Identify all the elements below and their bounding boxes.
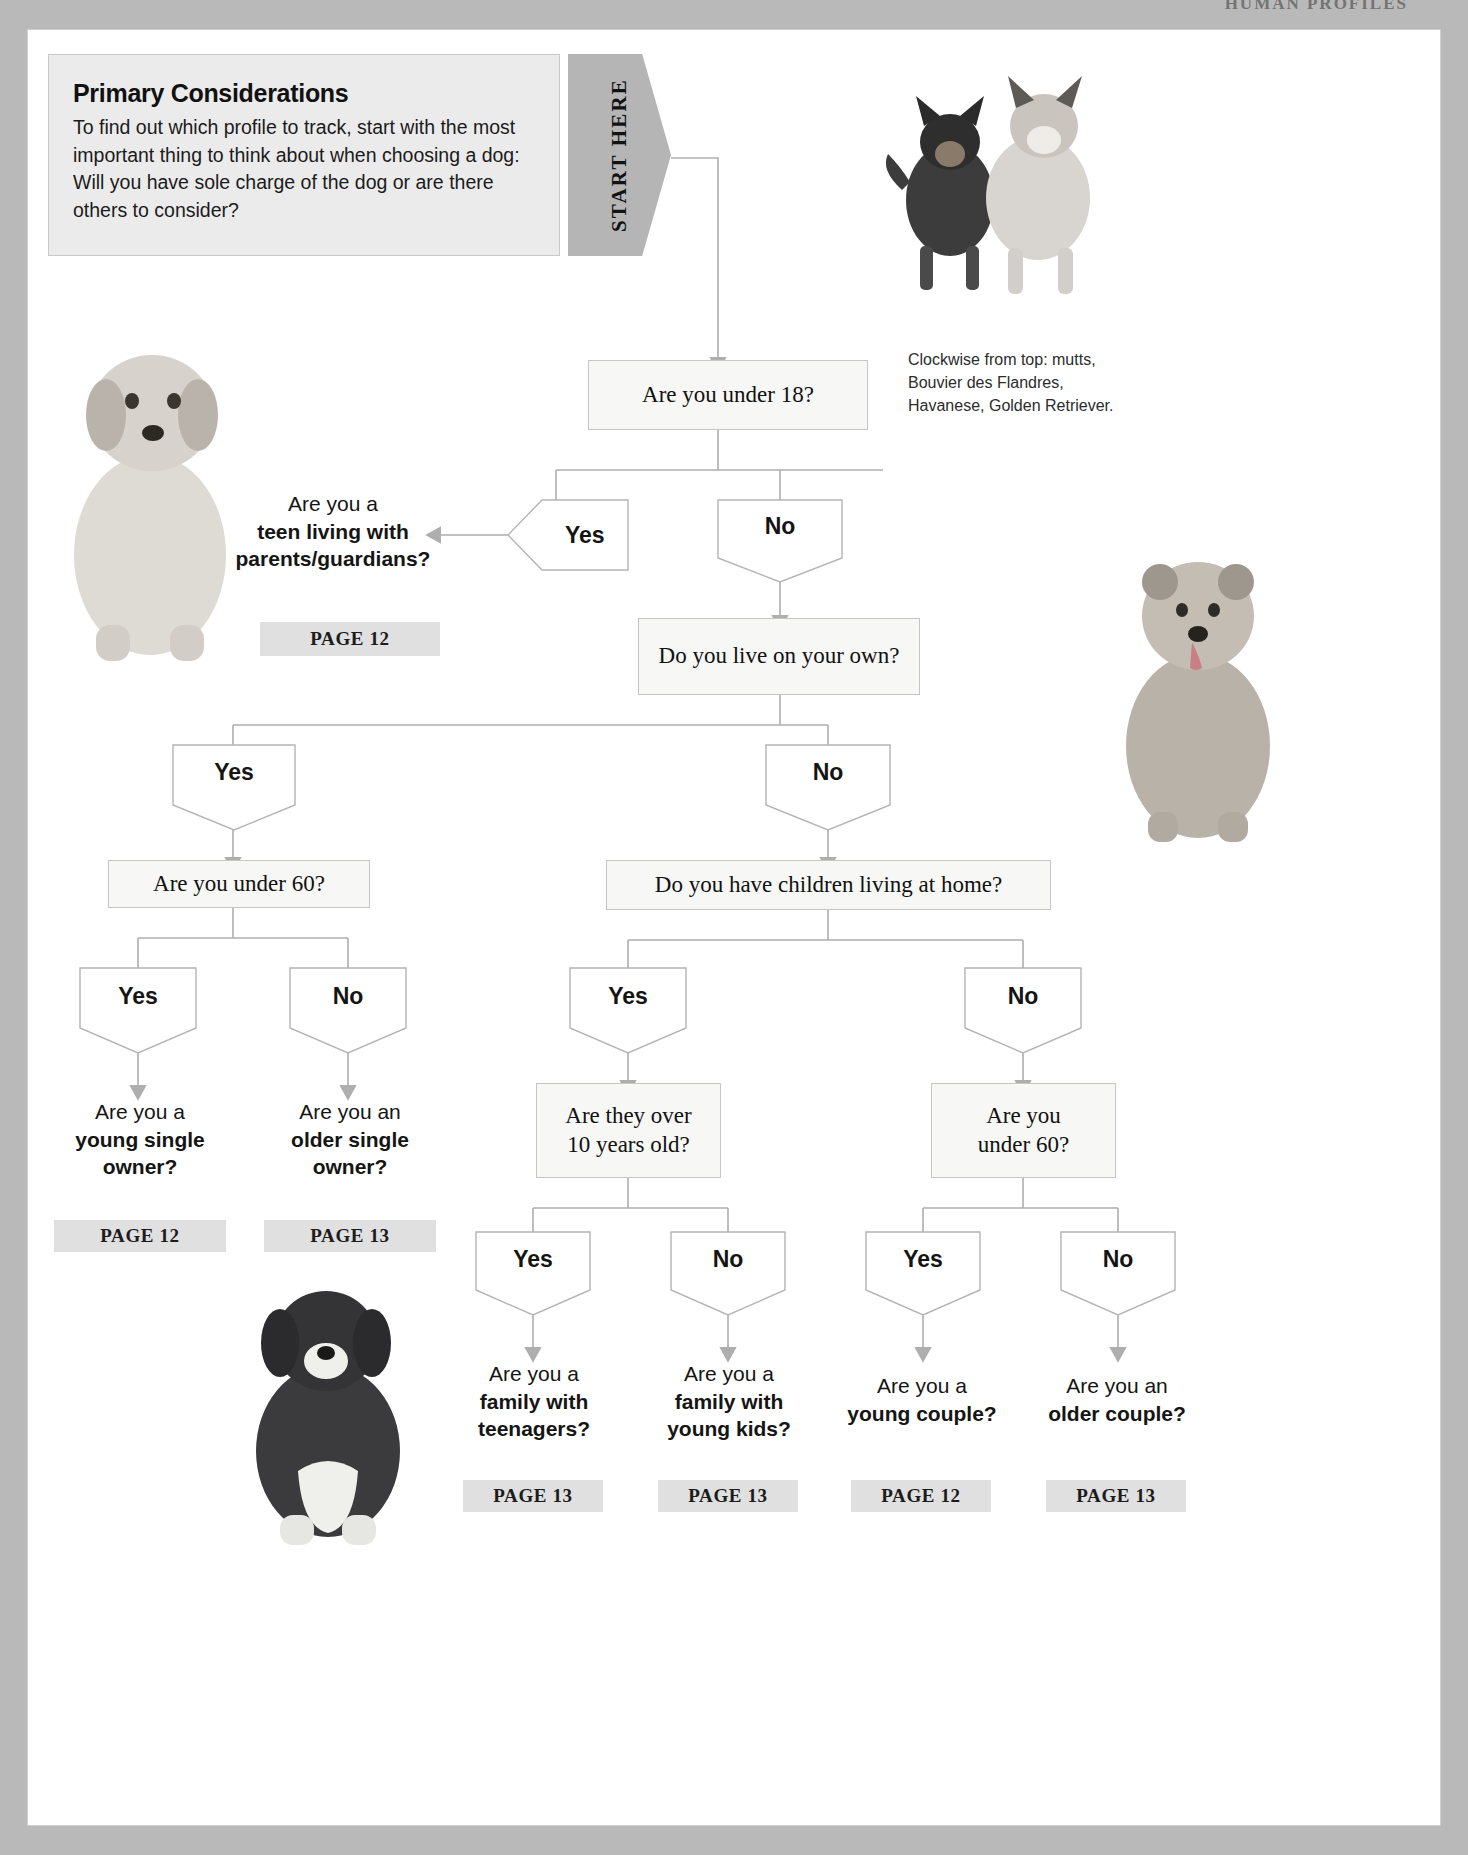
- result-strong-line-1: young couple?: [847, 1400, 996, 1428]
- result-lead: Are you an: [299, 1098, 401, 1126]
- result-family-with-young-kids: Are you a family with young kids?: [633, 1360, 825, 1470]
- page-chip-young-single[interactable]: PAGE 12: [54, 1220, 226, 1252]
- result-young-single-owner: Are you a young single owner?: [40, 1098, 240, 1208]
- result-lead: Are you a: [877, 1372, 967, 1400]
- result-strong-line-1: older single: [291, 1126, 409, 1154]
- question-text-line-1: Are they over: [565, 1102, 691, 1131]
- result-strong-line-1: family with: [675, 1388, 784, 1416]
- result-strong-line-2: teenagers?: [478, 1415, 590, 1443]
- page-chip-label: PAGE 13: [688, 1485, 767, 1507]
- question-text: Are you under 60?: [153, 870, 325, 899]
- connector-lines: [28, 30, 1440, 1825]
- result-teen-living-with-parents: Are you a teen living with parents/guard…: [223, 490, 443, 600]
- result-strong-line-2: owner?: [313, 1153, 388, 1181]
- answer-label: No: [718, 500, 842, 582]
- flowchart-canvas: Primary Considerations To find out which…: [28, 30, 1440, 1825]
- result-strong-line-2: parents/guardians?: [236, 545, 431, 573]
- question-under-18: Are you under 18?: [588, 360, 868, 430]
- answer-label: Yes: [80, 968, 196, 1053]
- start-here-label: START HERE: [568, 54, 671, 256]
- result-strong-line-1: older couple?: [1048, 1400, 1186, 1428]
- answer-label: Yes: [508, 500, 628, 570]
- question-text-line-1: Are you: [986, 1102, 1061, 1131]
- answer-label: No: [671, 1232, 785, 1315]
- result-strong-line-1: family with: [480, 1388, 589, 1416]
- photo-havanese: [210, 1265, 440, 1550]
- photo-caption: Clockwise from top: mutts, Bouvier des F…: [908, 348, 1138, 418]
- running-head: HUMAN PROFILES: [1225, 0, 1408, 14]
- result-family-with-teenagers: Are you a family with teenagers?: [438, 1360, 630, 1470]
- question-over-10-years-old: Are they over 10 years old?: [536, 1083, 721, 1178]
- page-chip-label: PAGE 13: [493, 1485, 572, 1507]
- page-chip-label: PAGE 12: [310, 628, 389, 650]
- answer-no-live-on-own[interactable]: No: [766, 745, 890, 830]
- question-text: Are you under 18?: [642, 381, 814, 410]
- result-lead: Are you a: [288, 490, 378, 518]
- result-young-couple: Are you a young couple?: [826, 1372, 1018, 1462]
- page-chip-label: PAGE 12: [100, 1225, 179, 1247]
- result-strong-line-2: young kids?: [667, 1415, 791, 1443]
- answer-label: Yes: [866, 1232, 980, 1315]
- question-text-line-2: 10 years old?: [567, 1131, 690, 1160]
- primary-considerations-panel: Primary Considerations To find out which…: [48, 54, 560, 256]
- page-chip-family-young-kids[interactable]: PAGE 13: [658, 1480, 798, 1512]
- answer-label: No: [1061, 1232, 1175, 1315]
- result-strong-line-1: young single: [75, 1126, 205, 1154]
- question-text: Do you live on your own?: [659, 642, 900, 671]
- result-lead: Are you a: [684, 1360, 774, 1388]
- answer-no-children[interactable]: No: [965, 968, 1081, 1053]
- answer-label: No: [290, 968, 406, 1053]
- result-older-couple: Are you an older couple?: [1021, 1372, 1213, 1462]
- answer-label: Yes: [173, 745, 295, 830]
- page-chip-label: PAGE 13: [1076, 1485, 1155, 1507]
- answer-yes-under-60-left[interactable]: Yes: [80, 968, 196, 1053]
- answer-yes-over-10[interactable]: Yes: [476, 1232, 590, 1315]
- page-chip-label: PAGE 13: [310, 1225, 389, 1247]
- result-strong-line-2: owner?: [103, 1153, 178, 1181]
- answer-no-under-60-left[interactable]: No: [290, 968, 406, 1053]
- answer-label: Yes: [570, 968, 686, 1053]
- question-text-line-2: under 60?: [978, 1131, 1069, 1160]
- question-under-60-left: Are you under 60?: [108, 860, 370, 908]
- page-header: HUMAN PROFILES: [0, 0, 1468, 30]
- page-chip-older-couple[interactable]: PAGE 13: [1046, 1480, 1186, 1512]
- photo-bouvier-des-flandres: [1096, 530, 1301, 845]
- answer-yes-children[interactable]: Yes: [570, 968, 686, 1053]
- answer-label: No: [766, 745, 890, 830]
- result-lead: Are you a: [489, 1360, 579, 1388]
- answer-yes-live-on-own[interactable]: Yes: [173, 745, 295, 830]
- page-chip-young-couple[interactable]: PAGE 12: [851, 1480, 991, 1512]
- result-strong-line-1: teen living with: [257, 518, 409, 546]
- page-sheet: Primary Considerations To find out which…: [28, 30, 1440, 1825]
- question-text: Do you have children living at home?: [655, 871, 1002, 900]
- answer-no-under-60-right[interactable]: No: [1061, 1232, 1175, 1315]
- panel-title: Primary Considerations: [73, 79, 537, 108]
- panel-body: To find out which profile to track, star…: [73, 114, 537, 225]
- result-lead: Are you a: [95, 1098, 185, 1126]
- photo-golden-retriever: [38, 305, 268, 665]
- answer-yes-under-60-right[interactable]: Yes: [866, 1232, 980, 1315]
- answer-no-over-10[interactable]: No: [671, 1232, 785, 1315]
- result-older-single-owner: Are you an older single owner?: [250, 1098, 450, 1208]
- answer-no-under-18[interactable]: No: [718, 500, 842, 582]
- page-chip-label: PAGE 12: [881, 1485, 960, 1507]
- answer-label: No: [965, 968, 1081, 1053]
- question-under-60-right: Are you under 60?: [931, 1083, 1116, 1178]
- result-lead: Are you an: [1066, 1372, 1168, 1400]
- photo-mutts-bouvier: [858, 50, 1118, 300]
- start-here-banner: START HERE: [568, 54, 671, 256]
- question-live-on-own: Do you live on your own?: [638, 618, 920, 695]
- answer-yes-under-18[interactable]: Yes: [508, 500, 628, 570]
- page-chip-family-teenagers[interactable]: PAGE 13: [463, 1480, 603, 1512]
- question-children-at-home: Do you have children living at home?: [606, 860, 1051, 910]
- answer-label: Yes: [476, 1232, 590, 1315]
- page-chip-older-single[interactable]: PAGE 13: [264, 1220, 436, 1252]
- page-chip-teen[interactable]: PAGE 12: [260, 622, 440, 656]
